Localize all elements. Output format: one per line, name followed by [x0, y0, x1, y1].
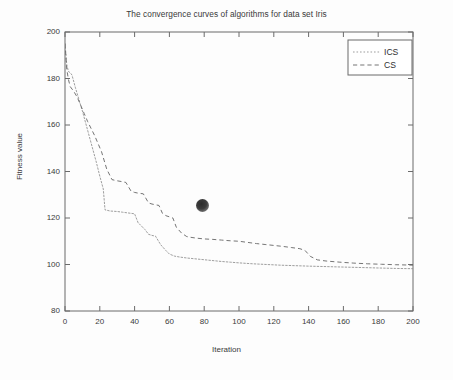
y-tick-label: 100: [20, 260, 60, 269]
legend-label-ics: ICS: [384, 47, 398, 57]
y-tick-label: 80: [20, 306, 60, 315]
y-tick-label: 160: [20, 120, 60, 129]
legend-label-cs: CS: [384, 60, 396, 70]
x-tick-label: 200: [393, 317, 433, 326]
y-tick-label: 200: [20, 27, 60, 36]
series-line-cs: [65, 44, 413, 266]
y-tick-label: 180: [20, 74, 60, 83]
legend-box: [348, 40, 412, 75]
chart-figure: The convergence curves of algorithms for…: [0, 0, 453, 380]
y-tick-label: 140: [20, 167, 60, 176]
y-tick-label: 120: [20, 213, 60, 222]
series-line-ics: [65, 44, 413, 269]
